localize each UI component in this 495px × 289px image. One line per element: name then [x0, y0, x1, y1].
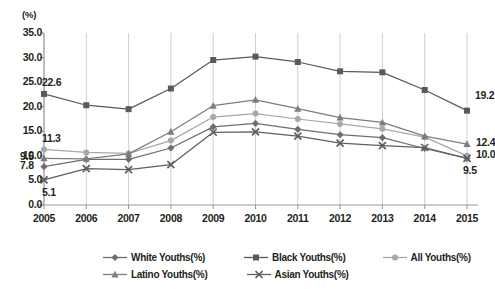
legend-item-label: Asian Youths(%) [275, 269, 349, 280]
data-point-label: 11.3 [42, 132, 61, 144]
y-tick-label: 5.0 [28, 173, 42, 185]
legend-item-label: White Youths(%) [131, 252, 205, 263]
y-tick-label: 35.0 [23, 26, 42, 38]
diamond-marker-icon [294, 126, 301, 133]
legend-row-2: Latino Youths(%)Asian Youths(%) [0, 266, 483, 283]
diamond-marker-icon [252, 120, 259, 127]
data-point-label: 9.5 [463, 164, 477, 176]
legend-item[interactable]: White Youths(%) [102, 252, 205, 263]
square-marker-icon [464, 108, 470, 114]
square-marker-icon [295, 59, 301, 65]
circle-marker-icon [392, 255, 398, 261]
x-tick-label: 2005 [22, 212, 66, 224]
square-marker-icon [253, 54, 259, 60]
x-tick-label: 2007 [107, 212, 151, 224]
circle-marker-icon [168, 138, 174, 144]
y-tick-label: 25.0 [23, 75, 42, 87]
data-point-label: 10.0 [476, 148, 495, 160]
data-point-label: 19.2 [475, 89, 494, 101]
legend-item-label: Black Youths(%) [272, 252, 345, 263]
circle-marker-icon [83, 149, 89, 155]
legend-item-label: Latino Youths(%) [131, 269, 208, 280]
data-point-label: 7.8 [20, 159, 34, 171]
cross-marker-icon [246, 269, 272, 280]
diamond-marker-icon [102, 252, 128, 263]
legend-swatch-cross-marker-icon [246, 269, 272, 280]
y-tick-label: 30.0 [23, 51, 42, 63]
y-tick-label: 0.0 [28, 198, 42, 210]
y-tick-label: 20.0 [23, 100, 42, 112]
square-marker-icon [168, 86, 174, 92]
x-tick-label: 2012 [318, 212, 362, 224]
y-axis-tick-labels: 35.030.025.020.015.010.05.00.0 [0, 0, 42, 215]
chart-legend: White Youths(%)Black Youths(%)All Youths… [0, 249, 483, 283]
circle-marker-icon [210, 114, 216, 120]
diamond-marker-icon [111, 254, 118, 261]
data-point-label: 5.1 [42, 186, 56, 198]
x-tick-label: 2010 [234, 212, 278, 224]
x-tick-label: 2009 [191, 212, 235, 224]
triangle-marker-icon [167, 128, 174, 135]
legend-swatch-diamond-marker-icon [102, 252, 128, 263]
legend-swatch-triangle-marker-icon [102, 269, 128, 280]
legend-row-1: White Youths(%)Black Youths(%)All Youths… [0, 249, 483, 266]
legend-item[interactable]: Black Youths(%) [243, 252, 345, 263]
triangle-marker-icon [102, 269, 128, 280]
x-tick-label: 2006 [64, 212, 108, 224]
square-marker-icon [126, 106, 132, 112]
x-tick-label: 2011 [276, 212, 320, 224]
circle-marker-icon [337, 121, 343, 127]
circle-marker-icon [295, 116, 301, 122]
x-tick-label: 2014 [403, 212, 447, 224]
circle-marker-icon [382, 252, 408, 263]
legend-item[interactable]: Latino Youths(%) [102, 269, 208, 280]
legend-item-label: All Youths(%) [411, 252, 471, 263]
triangle-marker-icon [252, 96, 259, 103]
x-tick-label: 2008 [149, 212, 193, 224]
square-marker-icon [210, 57, 216, 63]
square-marker-icon [83, 102, 89, 108]
legend-swatch-square-marker-icon [243, 252, 269, 263]
x-tick-label: 2013 [360, 212, 404, 224]
legend-swatch-circle-marker-icon [382, 252, 408, 263]
x-tick-label: 2015 [445, 212, 489, 224]
diamond-marker-icon [167, 144, 174, 151]
square-marker-icon [379, 69, 385, 75]
diamond-marker-icon [337, 131, 344, 138]
data-point-label: 12.4 [476, 136, 495, 148]
legend-item[interactable]: All Youths(%) [382, 252, 471, 263]
circle-marker-icon [379, 126, 385, 132]
square-marker-icon [243, 252, 269, 263]
data-point-label: 22.6 [42, 76, 61, 88]
diamond-marker-icon [379, 134, 386, 141]
circle-marker-icon [253, 111, 259, 117]
legend-item[interactable]: Asian Youths(%) [246, 269, 349, 280]
square-marker-icon [253, 255, 259, 261]
square-marker-icon [337, 68, 343, 74]
y-tick-label: 15.0 [23, 124, 42, 136]
square-marker-icon [422, 87, 428, 93]
